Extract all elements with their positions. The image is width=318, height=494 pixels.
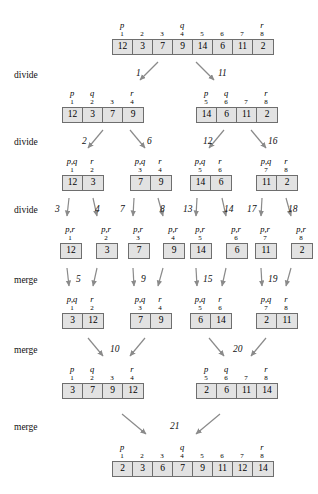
- merge-2-l2-arrow-icon: [209, 338, 224, 356]
- array-index: 5: [190, 166, 210, 175]
- pointer-r: r: [150, 156, 170, 166]
- array-cell: 9: [151, 314, 171, 328]
- merge-2-l-arrow-icon: [88, 338, 103, 356]
- leaf-5: p,r514: [190, 224, 210, 259]
- array-cell: 12: [83, 314, 103, 328]
- pointer-p: p: [112, 442, 132, 452]
- step-number-10: 10: [110, 344, 120, 354]
- leaf-4-indices: 4: [163, 234, 183, 243]
- merge1-d: p,qr78211: [256, 294, 296, 329]
- pointer-spacer: [132, 20, 152, 30]
- array-cell: 2: [277, 176, 297, 190]
- array-index: 8: [252, 452, 272, 461]
- array-index: 1: [62, 166, 82, 175]
- array-index: 5: [192, 452, 212, 461]
- final-array: p q r1234567823679111214: [112, 442, 272, 477]
- pointer-p-q: p,q: [130, 294, 150, 304]
- pointer-r: r: [122, 364, 142, 374]
- merge-1-d-r-arrow-icon: [286, 268, 291, 286]
- divide2-c-pointers: p,qr: [190, 156, 230, 166]
- array-cell: 9: [123, 108, 143, 122]
- divide-2-d-arrow-icon: [251, 130, 266, 148]
- merge2-left-cells: 37912: [62, 383, 144, 399]
- final-array-cells: 23679111214: [112, 461, 274, 477]
- merge1-a: p,qr12312: [62, 294, 102, 329]
- pointer-r: r: [82, 156, 102, 166]
- merge2-left-pointers: pq r: [62, 364, 142, 374]
- array-index: 8: [291, 234, 311, 243]
- divide1-left-pointers: pq r: [62, 88, 142, 98]
- array-cell: 3: [83, 176, 103, 190]
- pointer-p: p: [112, 20, 132, 30]
- array-index: 7: [232, 30, 252, 39]
- array-index: 7: [256, 166, 276, 175]
- array-cell: 12: [63, 108, 83, 122]
- array-index: 7: [236, 374, 256, 383]
- merge1-c-cells: 614: [190, 313, 232, 329]
- step-number-7: 7: [120, 204, 125, 214]
- pointer-q: q: [172, 20, 192, 30]
- array-index: 8: [256, 98, 276, 107]
- array-cell: 3: [97, 244, 117, 258]
- final-array-indices: 12345678: [112, 452, 272, 461]
- root-array: p q r1234567812379146112: [112, 20, 272, 55]
- leaf-7: p,r711: [255, 224, 275, 259]
- pointer-spacer: [152, 20, 172, 30]
- array-index: 5: [190, 234, 210, 243]
- array-cell: 11: [233, 40, 253, 54]
- step-number-15: 15: [203, 274, 213, 284]
- merge-2-r2-arrow-icon: [251, 338, 266, 356]
- array-index: 2: [82, 166, 102, 175]
- leaf-3-indices: 3: [128, 234, 148, 243]
- pointer-p-r: p,r: [226, 224, 246, 234]
- array-cell: 2: [257, 108, 277, 122]
- divide2-d: p,qr78112: [256, 156, 296, 191]
- merge1-d-indices: 78: [256, 304, 296, 313]
- array-cell: 12: [123, 384, 143, 398]
- pointer-spacer: [192, 442, 212, 452]
- array-cell: 2: [292, 244, 312, 258]
- divide1-right-pointers: pq r: [196, 88, 276, 98]
- array-cell: 2: [113, 462, 133, 476]
- array-index: 4: [172, 30, 192, 39]
- root-array-cells: 12379146112: [112, 39, 274, 55]
- divide1-right: pq r5678146112: [196, 88, 276, 123]
- array-index: 1: [62, 98, 82, 107]
- pointer-r: r: [252, 442, 272, 452]
- array-cell: 2: [253, 40, 273, 54]
- array-cell: 7: [153, 40, 173, 54]
- pointer-r: r: [252, 20, 272, 30]
- merge2-left-indices: 1234: [62, 374, 142, 383]
- step-number-18: 18: [288, 204, 298, 214]
- merge-1-d-l-arrow-icon: [261, 268, 262, 286]
- array-cell: 9: [103, 384, 123, 398]
- merge-sort-diagram: dividedividedividemergemergemerge 111261…: [0, 0, 318, 494]
- merge1-b-pointers: p,qr: [130, 294, 170, 304]
- array-cell: 11: [257, 176, 277, 190]
- pointer-p-r: p,r: [255, 224, 275, 234]
- array-cell: 11: [277, 314, 297, 328]
- array-index: 4: [150, 304, 170, 313]
- leaf-2-pointers: p,r: [96, 224, 116, 234]
- leaf-1-indices: 1: [60, 234, 80, 243]
- leaf-4: p,r49: [163, 224, 183, 259]
- leaf-8-indices: 8: [291, 234, 311, 243]
- leaf-7-cells: 11: [255, 243, 277, 259]
- pointer-p-q: p,q: [62, 294, 82, 304]
- pointer-p-q: p,q: [190, 294, 210, 304]
- array-cell: 2: [257, 314, 277, 328]
- divide1-left: pq r123412379: [62, 88, 142, 123]
- merge-3-r-arrow-icon: [196, 414, 220, 434]
- array-index: 5: [192, 30, 212, 39]
- array-cell: 6: [227, 244, 247, 258]
- array-index: 8: [252, 30, 272, 39]
- array-index: 3: [102, 374, 122, 383]
- pointer-p-r: p,r: [60, 224, 80, 234]
- array-index: 6: [226, 234, 246, 243]
- step-number-2: 2: [82, 136, 87, 146]
- divide2-a: p,qr12123: [62, 156, 102, 191]
- divide2-d-cells: 112: [256, 175, 298, 191]
- operation-label-merge-3: merge: [14, 275, 38, 285]
- merge1-b: p,qr3479: [130, 294, 170, 329]
- array-cell: 9: [151, 176, 171, 190]
